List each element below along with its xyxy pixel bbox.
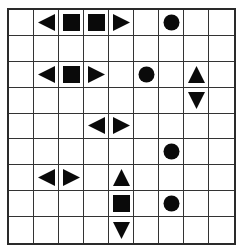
square-icon — [59, 62, 83, 87]
grid-cell-r0-c8[interactable] — [209, 10, 234, 36]
triangle-right-icon — [109, 10, 133, 35]
grid-cell-r5-c5[interactable] — [134, 139, 159, 165]
grid-cell-r6-c5[interactable] — [134, 165, 159, 191]
grid-cell-r7-c5[interactable] — [134, 191, 159, 217]
triangle-left-icon — [34, 10, 58, 35]
grid-cell-r0-c5[interactable] — [134, 10, 159, 36]
grid-cell-r3-c6[interactable] — [159, 88, 184, 114]
grid-cell-r5-c7[interactable] — [184, 139, 209, 165]
grid-cell-r5-c8[interactable] — [209, 139, 234, 165]
grid-cell-r2-c1[interactable] — [34, 62, 59, 88]
triangle-down-icon — [109, 217, 133, 243]
grid-cell-r8-c6[interactable] — [159, 217, 184, 243]
grid-cell-r6-c7[interactable] — [184, 165, 209, 191]
grid-cell-r0-c3[interactable] — [84, 10, 109, 36]
grid-cell-r1-c2[interactable] — [59, 36, 84, 62]
grid-cell-r6-c6[interactable] — [159, 165, 184, 191]
grid-cell-r3-c0[interactable] — [9, 88, 34, 114]
square-icon — [84, 10, 108, 35]
grid-cell-r8-c0[interactable] — [9, 217, 34, 243]
grid-cell-r1-c4[interactable] — [109, 36, 134, 62]
grid-cell-r7-c0[interactable] — [9, 191, 34, 217]
grid-cell-r1-c0[interactable] — [9, 36, 34, 62]
grid-cell-r4-c2[interactable] — [59, 114, 84, 140]
grid-cell-r4-c3[interactable] — [84, 114, 109, 140]
grid-cell-r5-c0[interactable] — [9, 139, 34, 165]
grid-cell-r4-c5[interactable] — [134, 114, 159, 140]
grid-cell-r4-c4[interactable] — [109, 114, 134, 140]
grid-cell-r5-c3[interactable] — [84, 139, 109, 165]
grid-cell-r5-c2[interactable] — [59, 139, 84, 165]
grid-cell-r3-c8[interactable] — [209, 88, 234, 114]
grid-cell-r3-c5[interactable] — [134, 88, 159, 114]
grid-cell-r7-c8[interactable] — [209, 191, 234, 217]
grid-cell-r1-c5[interactable] — [134, 36, 159, 62]
grid-cell-r3-c2[interactable] — [59, 88, 84, 114]
grid-cell-r6-c3[interactable] — [84, 165, 109, 191]
grid-cell-r8-c8[interactable] — [209, 217, 234, 243]
circle-icon — [159, 191, 183, 216]
square-icon — [59, 10, 83, 35]
grid-cell-r7-c2[interactable] — [59, 191, 84, 217]
grid-cell-r3-c1[interactable] — [34, 88, 59, 114]
triangle-up-icon — [109, 165, 133, 190]
grid-cell-r6-c2[interactable] — [59, 165, 84, 191]
grid-cell-r8-c7[interactable] — [184, 217, 209, 243]
grid-cell-r7-c6[interactable] — [159, 191, 184, 217]
triangle-right-icon — [59, 165, 83, 190]
grid-cell-r0-c0[interactable] — [9, 10, 34, 36]
grid-cell-r0-c4[interactable] — [109, 10, 134, 36]
grid-cell-r3-c3[interactable] — [84, 88, 109, 114]
grid-cell-r4-c7[interactable] — [184, 114, 209, 140]
grid-cell-r5-c4[interactable] — [109, 139, 134, 165]
triangle-right-icon — [84, 62, 108, 87]
grid-cell-r3-c7[interactable] — [184, 88, 209, 114]
triangle-left-icon — [34, 165, 58, 190]
grid-cell-r2-c4[interactable] — [109, 62, 134, 88]
grid-cell-r7-c7[interactable] — [184, 191, 209, 217]
grid-cell-r0-c6[interactable] — [159, 10, 184, 36]
grid-cell-r1-c1[interactable] — [34, 36, 59, 62]
grid-cell-r4-c0[interactable] — [9, 114, 34, 140]
grid-cell-r2-c8[interactable] — [209, 62, 234, 88]
triangle-up-icon — [184, 62, 208, 87]
grid-cell-r2-c0[interactable] — [9, 62, 34, 88]
grid-cell-r2-c3[interactable] — [84, 62, 109, 88]
grid-cell-r1-c8[interactable] — [209, 36, 234, 62]
grid-cell-r2-c6[interactable] — [159, 62, 184, 88]
grid-cell-r2-c5[interactable] — [134, 62, 159, 88]
triangle-right-icon — [109, 114, 133, 139]
triangle-left-icon — [34, 62, 58, 87]
grid-cell-r6-c8[interactable] — [209, 165, 234, 191]
grid-cell-r0-c7[interactable] — [184, 10, 209, 36]
grid-cell-r6-c0[interactable] — [9, 165, 34, 191]
circle-icon — [159, 10, 183, 35]
grid-cell-r1-c7[interactable] — [184, 36, 209, 62]
grid-cell-r0-c2[interactable] — [59, 10, 84, 36]
grid-cell-r7-c3[interactable] — [84, 191, 109, 217]
circle-icon — [159, 139, 183, 164]
grid-cell-r2-c7[interactable] — [184, 62, 209, 88]
grid-cell-r4-c8[interactable] — [209, 114, 234, 140]
triangle-down-icon — [184, 88, 208, 113]
battleship-grid — [7, 8, 236, 245]
grid-cell-r7-c1[interactable] — [34, 191, 59, 217]
grid-cell-r1-c6[interactable] — [159, 36, 184, 62]
grid-cell-r3-c4[interactable] — [109, 88, 134, 114]
grid-cell-r0-c1[interactable] — [34, 10, 59, 36]
grid-cell-r5-c6[interactable] — [159, 139, 184, 165]
grid-cell-r4-c6[interactable] — [159, 114, 184, 140]
grid-cell-r8-c4[interactable] — [109, 217, 134, 243]
grid-cell-r8-c3[interactable] — [84, 217, 109, 243]
grid-cell-r6-c4[interactable] — [109, 165, 134, 191]
square-icon — [109, 191, 133, 216]
grid-cell-r5-c1[interactable] — [34, 139, 59, 165]
grid-cell-r2-c2[interactable] — [59, 62, 84, 88]
grid-cell-r8-c5[interactable] — [134, 217, 159, 243]
grid-cell-r8-c2[interactable] — [59, 217, 84, 243]
grid-cell-r7-c4[interactable] — [109, 191, 134, 217]
grid-cell-r8-c1[interactable] — [34, 217, 59, 243]
grid-cell-r1-c3[interactable] — [84, 36, 109, 62]
grid-cell-r6-c1[interactable] — [34, 165, 59, 191]
grid-cell-r4-c1[interactable] — [34, 114, 59, 140]
